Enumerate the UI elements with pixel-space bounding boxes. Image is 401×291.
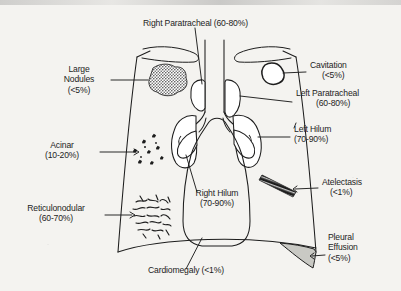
- label-reticulonodular: Reticulonodular (60-70%): [8, 203, 104, 224]
- label-pleural-effusion: Pleural Effusion (<5%): [328, 232, 400, 263]
- right-paratracheal-mass: [191, 80, 205, 111]
- label-large-nodules: Large Nodules (<5%): [46, 64, 112, 95]
- label-left-hilum: Left Hilum (70-90%): [294, 124, 394, 145]
- clavicle-left: [142, 47, 199, 63]
- leader-left-paratracheal: [240, 96, 292, 102]
- label-cavitation: Cavitation (<5%): [310, 60, 400, 81]
- label-atelectasis: Atelectasis (<1%): [322, 177, 401, 198]
- leader-atelectasis: [295, 188, 318, 189]
- cavitation-marker: [262, 63, 284, 84]
- trachea: [205, 40, 224, 112]
- label-acinar: Acinar (10-20%): [24, 140, 100, 161]
- label-right-hilum: Right Hilum (70-90%): [177, 188, 257, 209]
- label-cardiomegaly: Cardiomegaly (<1%): [98, 265, 274, 275]
- clavicle-right: [235, 47, 292, 63]
- large-nodules-marker: [149, 64, 187, 96]
- left-paratracheal-mass: [225, 80, 240, 117]
- leader-cavitation: [283, 72, 306, 73]
- leader-right-paratracheal: [195, 28, 202, 84]
- label-right-paratracheal: Right Paratracheal (60-80%): [108, 18, 283, 28]
- label-left-paratracheal: Left Paratracheal (60-80%): [296, 88, 401, 109]
- acinar-marker: [133, 134, 164, 165]
- atelectasis-marker: [259, 175, 296, 197]
- reticulonodular-marker: [133, 195, 171, 239]
